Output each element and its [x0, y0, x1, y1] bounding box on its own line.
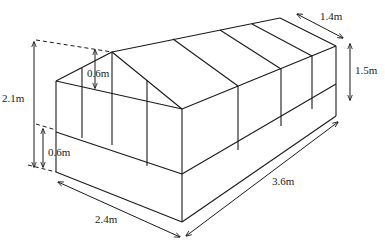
label-roof-rise: 0.6m	[87, 67, 110, 79]
label-base-height: 0.6m	[48, 146, 71, 158]
roof	[112, 18, 336, 109]
label-total-height: 2.1m	[2, 92, 25, 104]
label-side-wall-height: 1.5m	[355, 64, 378, 76]
dimension-total-height: 2.1m	[2, 42, 34, 167]
label-width: 2.4m	[95, 213, 118, 225]
dimension-base-height: 0.6m	[43, 129, 71, 167]
greenhouse-diagram: 2.1m 0.6m 0.6m 1.4m 1.5m 2.4m 3.6m	[0, 0, 385, 251]
side-wall	[182, 46, 336, 222]
label-length: 3.6m	[272, 175, 295, 187]
base-front-face	[56, 132, 182, 222]
dimension-length: 3.6m	[186, 122, 338, 236]
dimension-half-depth: 1.4m	[297, 10, 343, 38]
label-half-depth: 1.4m	[320, 10, 343, 22]
dimension-side-wall-height: 1.5m	[350, 44, 378, 100]
dimension-width: 2.4m	[58, 182, 180, 237]
dimension-roof-rise: 0.6m	[87, 50, 110, 88]
